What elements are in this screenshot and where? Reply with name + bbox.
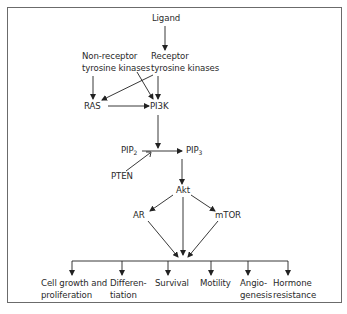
outcome-cell-growth-line1: Cell growth and bbox=[41, 277, 107, 289]
node-pten: PTEN bbox=[111, 170, 133, 182]
outcome-cell-growth: Cell growth and proliferation bbox=[41, 277, 107, 301]
outcome-motility-line1: Motility bbox=[200, 277, 231, 289]
arrow-rtk-to-ras bbox=[102, 75, 153, 100]
pip2-base: PIP bbox=[121, 145, 134, 155]
arrow-mtor-to-outcomes bbox=[188, 221, 218, 257]
node-akt: Akt bbox=[176, 184, 190, 196]
outcome-survival-line1: Survival bbox=[155, 277, 189, 289]
node-receptor-tk-line2: tyrosine kinases bbox=[151, 62, 219, 74]
pip2-subscript: 2 bbox=[134, 149, 138, 156]
arrow-ar-to-outcomes bbox=[148, 221, 178, 257]
node-receptor-tk-line1: Receptor bbox=[151, 50, 189, 62]
outcome-hormone-resistance-line1: Hormone bbox=[273, 277, 316, 289]
outcome-hormone-resistance: Hormone resistance bbox=[273, 277, 316, 301]
node-pi3k: PI3K bbox=[150, 100, 168, 112]
node-non-receptor-tk-line1: Non-receptor bbox=[82, 50, 137, 62]
outcome-cell-growth-line2: proliferation bbox=[41, 289, 107, 301]
node-pip3: PIP3 bbox=[186, 144, 202, 156]
node-ar: AR bbox=[133, 209, 145, 221]
pip3-base: PIP bbox=[186, 145, 199, 155]
outcome-angiogenesis-line1: Angio- bbox=[240, 277, 272, 289]
node-ligand: Ligand bbox=[152, 12, 180, 24]
outcome-differentiation-line2: tiation bbox=[110, 289, 147, 301]
outcome-survival: Survival bbox=[155, 277, 189, 289]
pathway-arrows bbox=[0, 0, 347, 314]
outcome-differentiation: Differen- tiation bbox=[110, 277, 147, 301]
node-pip2: PIP2 bbox=[121, 144, 137, 156]
node-non-receptor-tk-line2: tyrosine kinases bbox=[82, 62, 150, 74]
arrow-akt-to-mtor bbox=[191, 195, 215, 211]
node-ras: RAS bbox=[84, 100, 101, 112]
arrow-akt-to-ar bbox=[150, 195, 173, 211]
outcome-angiogenesis-line2: genesis bbox=[240, 289, 272, 301]
pip3-subscript: 3 bbox=[199, 149, 203, 156]
outcome-differentiation-line1: Differen- bbox=[110, 277, 147, 289]
outcome-angiogenesis: Angio- genesis bbox=[240, 277, 272, 301]
node-mtor: mTOR bbox=[215, 209, 241, 221]
outcome-motility: Motility bbox=[200, 277, 231, 289]
outcome-hormone-resistance-line2: resistance bbox=[273, 289, 316, 301]
